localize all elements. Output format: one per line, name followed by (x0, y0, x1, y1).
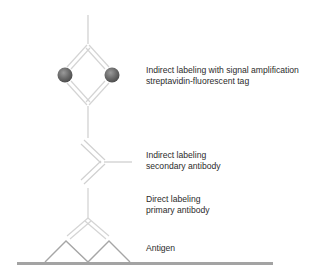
label-secondary-antibody: Indirect labeling secondary antibody (146, 150, 221, 171)
label-primary-line2: primary antibody (146, 205, 210, 216)
primary-antibody (67, 188, 109, 239)
label-streptavidin-line2: streptavidin-fluorescent tag (146, 76, 299, 87)
label-streptavidin-line1: Indirect labeling with signal amplificat… (146, 65, 299, 76)
antigen (45, 241, 130, 262)
streptavidin-complex (67, 45, 109, 105)
label-primary-antibody: Direct labeling primary antibody (146, 194, 210, 215)
label-secondary-line2: secondary antibody (146, 161, 221, 172)
secondary-antibody (81, 140, 132, 184)
label-antigen-line1: Antigen (146, 243, 175, 254)
fluorescent-tag-right (105, 68, 120, 83)
label-primary-line1: Direct labeling (146, 194, 210, 205)
surface (17, 262, 273, 265)
label-antigen: Antigen (146, 243, 175, 254)
label-streptavidin: Indirect labeling with signal amplificat… (146, 65, 299, 86)
immunolabeling-diagram (0, 0, 328, 277)
fluorescent-tag-left (58, 68, 73, 83)
label-secondary-line1: Indirect labeling (146, 150, 221, 161)
